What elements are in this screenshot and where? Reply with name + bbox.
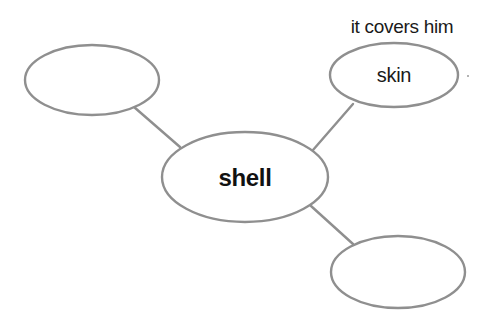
node-label-skin: skin (377, 64, 411, 87)
connector-top-right (313, 104, 353, 150)
connector-top-left (134, 107, 180, 147)
concept-map-diagram (0, 0, 489, 320)
node-label-shell: shell (218, 164, 271, 192)
stray-dot-mark (467, 75, 469, 77)
node-bottom-right-empty[interactable] (331, 236, 465, 308)
annotation-it-covers-him: it covers him (351, 16, 454, 38)
node-top-left-empty[interactable] (25, 45, 159, 115)
connector-bottom-right (311, 206, 353, 244)
